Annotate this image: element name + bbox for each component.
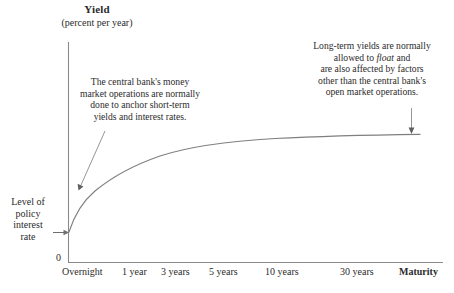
annotation-policy-rate-line-4: rate (2, 231, 54, 243)
long-term-arrow (409, 108, 415, 134)
annotation-long-term-line-2: allowed to float and (292, 52, 452, 64)
x-tick-label-5-years: 5 years (209, 266, 238, 277)
annotation-short-term-line-2: market operations are normally (64, 88, 216, 100)
annotation-long-term-emphasis: float (376, 52, 394, 63)
annotation-short-term: The central bank's money market operatio… (64, 76, 216, 122)
chart-figure: Yield (percent per year) The central ban… (0, 0, 454, 293)
y-axis-title: Yield (52, 3, 142, 15)
annotation-long-term-line-3: are also affected by factors (292, 63, 452, 75)
yield-curve (69, 134, 420, 232)
annotation-long-term: Long-term yields are normally allowed to… (292, 40, 452, 98)
annotation-long-term-line-2-post: and (394, 52, 410, 63)
annotation-policy-rate-line-2: policy (2, 208, 54, 220)
x-tick-label-10-years: 10 years (265, 266, 299, 277)
annotation-long-term-line-5: open market operations. (292, 86, 452, 98)
axis-origin-label: 0 (56, 252, 61, 263)
x-tick-label-1-year: 1 year (122, 266, 147, 277)
annotation-long-term-line-2-pre: allowed to (334, 52, 377, 63)
short-term-arrow (78, 131, 105, 191)
annotation-short-term-line-3: done to anchor short-term (64, 99, 216, 111)
annotation-short-term-line-1: The central bank's money (64, 76, 216, 88)
annotation-short-term-line-4: yields and interest rates. (64, 111, 216, 123)
annotation-policy-rate: Level of policy interest rate (2, 196, 54, 242)
annotation-long-term-line-4: other than the central bank's (292, 75, 452, 87)
x-tick-label-30-years: 30 years (340, 266, 374, 277)
y-axis-units: (percent per year) (36, 17, 158, 28)
annotation-policy-rate-line-3: interest (2, 219, 54, 231)
annotation-long-term-line-1: Long-term yields are normally (292, 40, 452, 52)
annotation-policy-rate-line-1: Level of (2, 196, 54, 208)
x-tick-label-overnight: Overnight (62, 266, 103, 277)
x-tick-label-3-years: 3 years (161, 266, 190, 277)
x-axis-title: Maturity (399, 266, 438, 277)
policy-rate-arrow (53, 230, 69, 235)
